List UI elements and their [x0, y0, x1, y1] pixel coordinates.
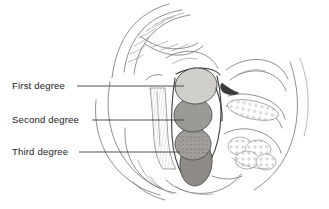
anatomy-illustration: First degree Second degree Third degree: [0, 0, 329, 209]
sacrum-coccyx: [124, 10, 203, 74]
upper-body-contour: [112, 4, 218, 78]
bladder-and-pubic-region: [216, 58, 308, 190]
label-second-degree: Second degree: [12, 114, 79, 125]
label-first-degree: First degree: [12, 80, 65, 91]
hemorrhoid-degrees-figure: First degree Second degree Third degree: [0, 0, 329, 209]
third-degree-hemorrhoid: [175, 128, 211, 160]
label-third-degree: Third degree: [12, 146, 68, 157]
